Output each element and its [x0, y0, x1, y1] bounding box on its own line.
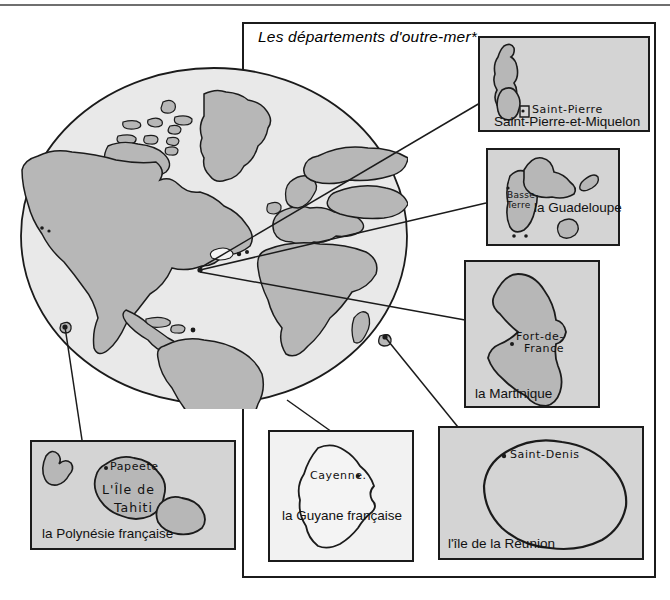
arctic-island-7 — [167, 137, 179, 145]
aleutian-dot-2 — [47, 229, 50, 232]
great-lakes — [210, 248, 233, 260]
arctic-island-4 — [168, 125, 181, 134]
arctic-island-8 — [174, 116, 192, 125]
aleutian-dot-1 — [40, 226, 44, 230]
label-cayenne: Cayenne. — [310, 469, 367, 482]
label-guyane-francaise: la Guyane française — [282, 508, 402, 523]
label-reunion: l'île de la Réunion — [448, 536, 555, 551]
saint-pierre-city-dot — [521, 109, 524, 112]
world-globe — [18, 64, 408, 409]
inset-polynesie-francaise[interactable]: Papeete L'Île de Tahiti la Polynésie fra… — [30, 440, 236, 550]
fort-de-france-city-dot — [510, 342, 514, 346]
label-martinique: la Martinique — [475, 386, 552, 401]
figure-canvas: Les départements d'outre-mer* — [0, 0, 670, 600]
label-papeete: Papeete — [110, 460, 159, 473]
moorea-island-shape — [43, 451, 73, 485]
guadeloupe-islet-2 — [524, 234, 528, 238]
marie-galante-shape — [558, 219, 579, 238]
arctic-island-2 — [123, 121, 141, 129]
guyane-map-svg — [270, 432, 416, 564]
lake-dot-2 — [245, 250, 249, 254]
inset-guyane-francaise[interactable]: Cayenne. la Guyane française — [268, 430, 414, 562]
arctic-island-9 — [165, 147, 178, 155]
figure-title: Les départements d'outre-mer* — [258, 28, 477, 46]
label-basse-terre-line2: Terre — [507, 201, 531, 211]
label-guadeloupe: la Guadeloupe — [534, 200, 622, 215]
antilles-dot — [191, 328, 196, 333]
label-polynesie-francaise: la Polynésie française — [42, 526, 173, 541]
label-tahiti-line1: L'Île de — [102, 482, 155, 497]
saint-denis-city-dot — [502, 454, 506, 458]
globe-svg — [18, 64, 408, 409]
arctic-island-3 — [148, 118, 163, 127]
page-top-rule — [0, 4, 670, 6]
la-desirade-shape — [580, 175, 599, 191]
hispaniola-shape — [171, 325, 185, 333]
inset-martinique[interactable]: Fort-de- France la Martinique — [464, 260, 600, 408]
label-tahiti-line2: Tahiti — [114, 500, 153, 515]
papeete-city-dot — [104, 466, 108, 470]
guadeloupe-islet-1 — [512, 234, 516, 238]
reunion-marker-island — [379, 335, 391, 346]
inset-guadeloupe[interactable]: Basse- Terre la Guadeloupe — [486, 148, 620, 246]
guyane-shape — [299, 445, 375, 547]
label-saint-pierre-et-miquelon: Saint-Pierre-et-Miquelon — [494, 114, 640, 129]
arctic-island-1 — [161, 100, 175, 113]
inset-reunion[interactable]: Saint-Denis l'île de la Réunion — [438, 426, 644, 560]
tahiti-marker-island — [60, 322, 71, 333]
arctic-island-6 — [144, 135, 158, 144]
label-saint-denis: Saint-Denis — [510, 448, 580, 461]
british-isles-shape — [267, 202, 281, 214]
asia-shape-2 — [327, 186, 408, 219]
label-fort-de-france-line2: France — [524, 342, 564, 355]
lake-dot-1 — [237, 252, 241, 256]
inset-saint-pierre-et-miquelon[interactable]: Saint-Pierre Saint-Pierre-et-Miquelon — [478, 36, 650, 132]
